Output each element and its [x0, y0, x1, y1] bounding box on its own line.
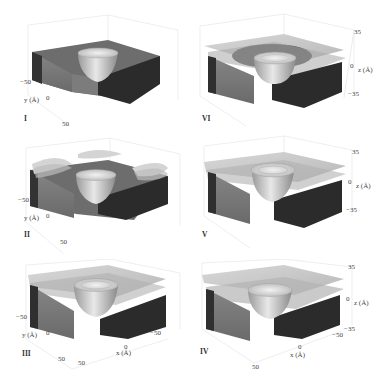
y-tick-50: 50 [60, 238, 67, 246]
panel-IV: 35 0 z (Å) −35 −50 0 x (Å) 50 IV [194, 259, 388, 388]
z-tick-0: 0 [346, 295, 350, 303]
y-tick-0: 0 [46, 212, 50, 220]
z-tick-neg35: −35 [344, 325, 355, 333]
x-tick-neg50: −50 [150, 329, 161, 337]
z-tick-neg35: −35 [346, 206, 357, 214]
x-tick-0: 0 [298, 343, 302, 351]
surface-render-I [0, 0, 194, 129]
x-tick-neg50: −50 [332, 331, 343, 339]
y-tick-50: 50 [62, 120, 69, 128]
y-tick-50: 50 [58, 355, 65, 363]
panel-label: VI [202, 114, 210, 123]
z-axis-label: z (Å) [354, 299, 369, 307]
z-tick-35: 35 [354, 28, 361, 36]
panel-I: −50 y (Å) 0 50 I [0, 0, 194, 129]
surface-render-II [0, 130, 194, 259]
panel-label: V [202, 230, 207, 239]
surface-render-VI [194, 0, 388, 129]
panel-label: III [22, 349, 31, 358]
y-tick-neg50: −50 [16, 313, 27, 321]
z-tick-35: 35 [348, 263, 355, 271]
panel-II: −50 y (Å) 0 50 II [0, 130, 194, 259]
z-axis-label: z (Å) [358, 66, 373, 74]
y-tick-neg50: −50 [20, 78, 31, 86]
panel-III: −50 y (Å) 0 50 −50 0 x (Å) 50 III [0, 259, 194, 388]
panel-VI: 35 0 z (Å) −35 VI [194, 0, 388, 129]
y-axis-label: y (Å) [24, 96, 39, 104]
panel-V: 35 0 z (Å) −35 V [194, 130, 388, 259]
x-axis-label: x (Å) [290, 351, 305, 359]
panel-label: II [24, 230, 30, 239]
x-tick-50: 50 [78, 359, 85, 367]
panel-label: IV [200, 347, 208, 356]
z-tick-0: 0 [348, 178, 352, 186]
y-tick-0: 0 [46, 329, 50, 337]
y-tick-neg50: −50 [18, 196, 29, 204]
z-tick-35: 35 [352, 148, 359, 156]
surface-render-III [0, 259, 194, 388]
panel-label: I [24, 114, 27, 123]
z-tick-neg35: −35 [348, 90, 359, 98]
x-axis-label: x (Å) [116, 349, 131, 357]
z-axis-label: z (Å) [356, 182, 371, 190]
y-axis-label: y (Å) [22, 331, 37, 339]
x-tick-50: 50 [252, 363, 259, 371]
surface-render-IV [194, 259, 388, 388]
y-axis-label: y (Å) [24, 214, 39, 222]
y-tick-0: 0 [46, 94, 50, 102]
z-tick-0: 0 [350, 62, 354, 70]
